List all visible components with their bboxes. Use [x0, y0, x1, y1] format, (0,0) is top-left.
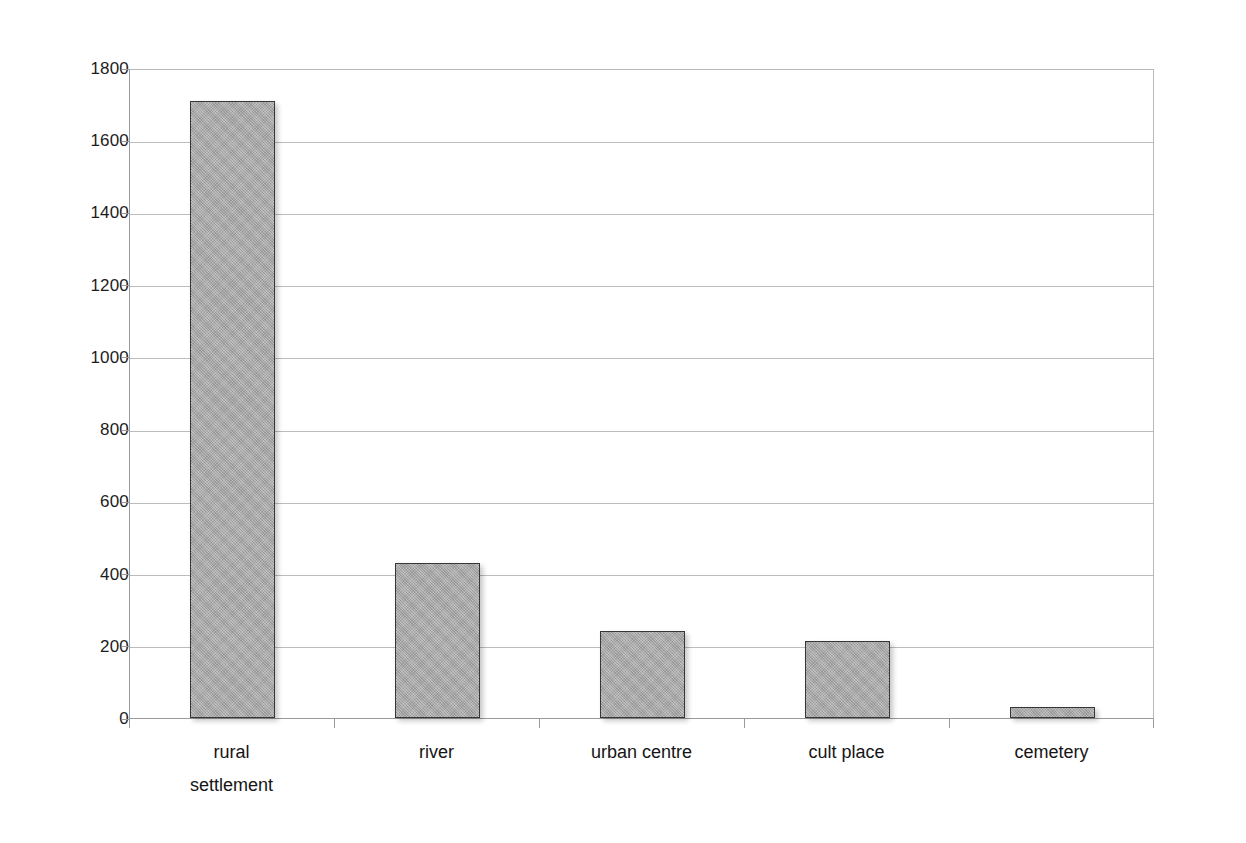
bar-cemetery[interactable]: [1010, 707, 1095, 718]
y-tick-mark: [121, 430, 129, 431]
y-tick-mark: [121, 141, 129, 142]
y-tick-label: 1200: [19, 277, 129, 294]
y-tick-label: 200: [19, 638, 129, 655]
y-tick-label: 400: [19, 566, 129, 583]
y-tick-label: 1600: [19, 132, 129, 149]
bar-chart: 020040060080010001200140016001800 rural …: [0, 0, 1246, 843]
bar-river[interactable]: [395, 563, 480, 718]
x-tick-mark: [1153, 719, 1154, 728]
y-tick-mark: [121, 574, 129, 575]
y-tick-label: 1000: [19, 349, 129, 366]
y-tick-mark: [121, 285, 129, 286]
x-axis-labels: rural settlementriverurban centrecult pl…: [129, 736, 1154, 816]
gridline: [130, 575, 1153, 576]
gridline: [130, 214, 1153, 215]
gridline: [130, 142, 1153, 143]
bar-cult-place[interactable]: [805, 641, 890, 718]
y-tick-label: 600: [19, 493, 129, 510]
y-tick-label: 0: [19, 710, 129, 727]
x-tick-mark: [129, 719, 130, 728]
x-tick-mark: [334, 719, 335, 728]
x-tick-label: urban centre: [539, 736, 744, 769]
bar-rural-settlement[interactable]: [190, 101, 275, 719]
y-tick-mark: [121, 646, 129, 647]
bar-urban-centre[interactable]: [600, 631, 685, 718]
y-tick-mark: [121, 69, 129, 70]
y-axis-labels: 020040060080010001200140016001800: [0, 69, 129, 719]
x-tick-label: river: [334, 736, 539, 769]
y-tick-label: 800: [19, 421, 129, 438]
x-tick-mark: [949, 719, 950, 728]
gridline: [130, 431, 1153, 432]
y-tick-label: 1400: [19, 204, 129, 221]
x-tick-label: cemetery: [949, 736, 1154, 769]
x-axis-ticks: [129, 719, 1154, 728]
y-tick-mark: [121, 213, 129, 214]
y-axis-ticks: [121, 69, 129, 719]
plot-area: [129, 69, 1154, 719]
gridline: [130, 286, 1153, 287]
y-tick-label: 1800: [19, 60, 129, 77]
x-tick-label: rural settlement: [129, 736, 334, 802]
y-tick-mark: [121, 502, 129, 503]
x-tick-mark: [539, 719, 540, 728]
y-tick-mark: [121, 719, 129, 720]
x-tick-label: cult place: [744, 736, 949, 769]
x-tick-mark: [744, 719, 745, 728]
gridline: [130, 503, 1153, 504]
gridline: [130, 358, 1153, 359]
y-tick-mark: [121, 357, 129, 358]
